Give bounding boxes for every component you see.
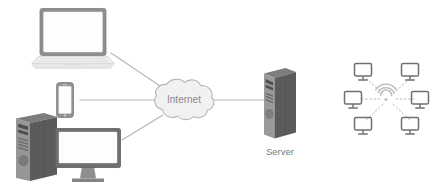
monitor-stand-neck (80, 167, 96, 179)
laptop-keyboard-deck (32, 57, 114, 64)
monitor-icon (345, 92, 362, 109)
monitor-icon (355, 118, 372, 135)
server-tower-icon: Server (264, 68, 296, 157)
link-desktop-to-internet (122, 115, 163, 140)
monitor-icon (402, 64, 419, 81)
smartphone-icon (57, 83, 74, 118)
server-power-button (266, 110, 273, 119)
network-diagram-canvas: Internet Serve (0, 0, 440, 192)
tower-side-face (30, 117, 57, 181)
cloud-label: Internet (167, 94, 201, 105)
tower-power-button (19, 155, 28, 165)
link-laptop-to-internet (111, 53, 160, 86)
laptop-screen (44, 12, 103, 52)
monitor-icon (355, 64, 372, 81)
desktop-tower (16, 113, 57, 181)
smartphone-screen (59, 86, 71, 113)
cloud-icon: Internet (155, 79, 214, 119)
laptop-trackpad (64, 64, 82, 66)
desktop-monitor (56, 129, 121, 183)
desktop-computer-icon (16, 113, 121, 182)
wifi-network-icon (345, 64, 429, 135)
monitor-stand-base (72, 179, 104, 183)
smartphone-speaker (63, 84, 68, 85)
network-diagram: Internet Serve (0, 0, 440, 192)
smartphone-home-button (64, 115, 66, 117)
server-label: Server (266, 146, 294, 157)
laptop-icon (32, 9, 115, 69)
monitor-screen (59, 132, 117, 163)
monitor-icon (412, 92, 429, 109)
